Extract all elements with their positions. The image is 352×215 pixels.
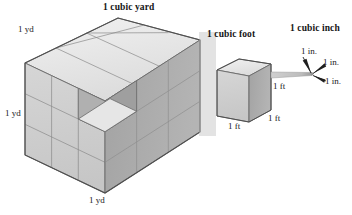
- dimension-label-foot-lower-right: 1 ft: [268, 113, 280, 123]
- cubic-inch-sliver: [271, 72, 312, 78]
- dimension-label-inch-middle: 1 in.: [323, 57, 339, 67]
- overlay-band: [199, 32, 216, 136]
- caption-cubic-inch: 1 cubic inch: [290, 23, 340, 33]
- dimension-label-foot-right: 1 ft: [273, 81, 285, 91]
- cubic-foot-solid: [217, 59, 271, 122]
- dimension-label-inch-top: 1 in.: [301, 46, 317, 56]
- caption-cubic-yard: 1 cubic yard: [103, 2, 154, 12]
- caption-cubic-foot: 1 cubic foot: [207, 29, 255, 39]
- cubic-inch-solid: [271, 72, 313, 78]
- dimension-label-foot-bottom: 1 ft: [228, 121, 240, 131]
- figure-canvas: 1 cubic yard 1 cubic foot 1 cubic inch 1…: [0, 0, 352, 215]
- dimension-label-yard-bottom: 1 yd: [89, 195, 105, 205]
- cubic-foot-front-face: [217, 70, 249, 122]
- dimension-label-yard-left: 1 yd: [5, 108, 21, 118]
- dimension-label-yard-top: 1 yd: [18, 24, 34, 34]
- dimension-label-inch-bottom: 1 in.: [325, 76, 341, 86]
